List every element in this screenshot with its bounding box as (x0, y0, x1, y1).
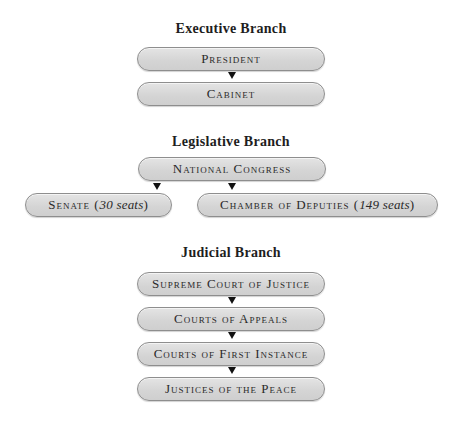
courts-of-appeals-label: Courts of Appeals (174, 311, 288, 327)
senate-label: Senate ( (48, 197, 99, 213)
chamber-of-deputies-box: Chamber of Deputies (149 seats) (197, 193, 438, 217)
president-label: President (201, 51, 261, 67)
senate-box: Senate (30 seats) (25, 193, 172, 217)
chamber-seats: 149 seats (359, 197, 410, 213)
executive-branch-heading: Executive Branch (0, 21, 462, 37)
justices-of-the-peace-label: Justices of the Peace (165, 381, 297, 397)
supreme-court-label: Supreme Court of Justice (152, 276, 310, 292)
president-box: President (137, 47, 325, 71)
national-congress-box: National Congress (138, 157, 326, 181)
chamber-close: ) (410, 197, 415, 213)
courts-of-first-instance-box: Courts of First Instance (137, 342, 325, 366)
chamber-label: Chamber of Deputies ( (220, 197, 359, 213)
justices-of-the-peace-box: Justices of the Peace (137, 377, 325, 401)
cabinet-label: Cabinet (207, 86, 256, 102)
arrow-down-icon (228, 297, 236, 304)
supreme-court-box: Supreme Court of Justice (137, 272, 325, 296)
judicial-branch-heading: Judicial Branch (0, 245, 462, 261)
national-congress-label: National Congress (173, 161, 291, 177)
arrow-down-icon (228, 332, 236, 339)
courts-of-first-instance-label: Courts of First Instance (154, 346, 309, 362)
senate-seats: 30 seats (100, 197, 144, 213)
senate-close: ) (143, 197, 148, 213)
courts-of-appeals-box: Courts of Appeals (137, 307, 325, 331)
legislative-branch-heading: Legislative Branch (0, 134, 462, 150)
arrow-down-icon (228, 72, 236, 79)
arrow-down-icon (153, 183, 161, 190)
arrow-down-icon (228, 183, 236, 190)
cabinet-box: Cabinet (137, 82, 325, 106)
arrow-down-icon (228, 367, 236, 374)
